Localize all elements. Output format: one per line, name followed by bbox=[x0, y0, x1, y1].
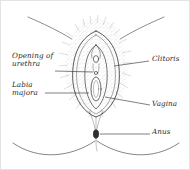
buttock-curve-left bbox=[13, 141, 95, 155]
label-labia-majora: Labia majora bbox=[12, 81, 38, 98]
label-anus: Anus bbox=[152, 128, 171, 136]
label-clitoris: Clitoris bbox=[152, 55, 180, 63]
urethral-opening bbox=[94, 72, 97, 75]
label-vagina: Vagina bbox=[152, 100, 177, 108]
anus bbox=[93, 130, 98, 138]
buttock-curve-right bbox=[97, 141, 179, 155]
anatomical-diagram: Opening of urethra Labia majora Clitoris… bbox=[0, 0, 190, 170]
clitoris bbox=[93, 56, 98, 63]
label-opening-of-urethra: Opening of urethra bbox=[12, 52, 53, 69]
natal-cleft bbox=[96, 138, 97, 151]
